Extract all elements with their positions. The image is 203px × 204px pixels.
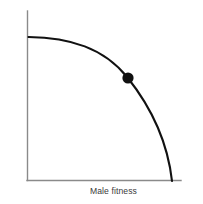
x-axis-label: Male fitness [0,187,203,196]
fitness-tradeoff-figure: Male fitness Female fitness [0,0,203,204]
plot-area [0,0,203,204]
tradeoff-curve [29,37,173,181]
data-point-marker [122,72,133,83]
